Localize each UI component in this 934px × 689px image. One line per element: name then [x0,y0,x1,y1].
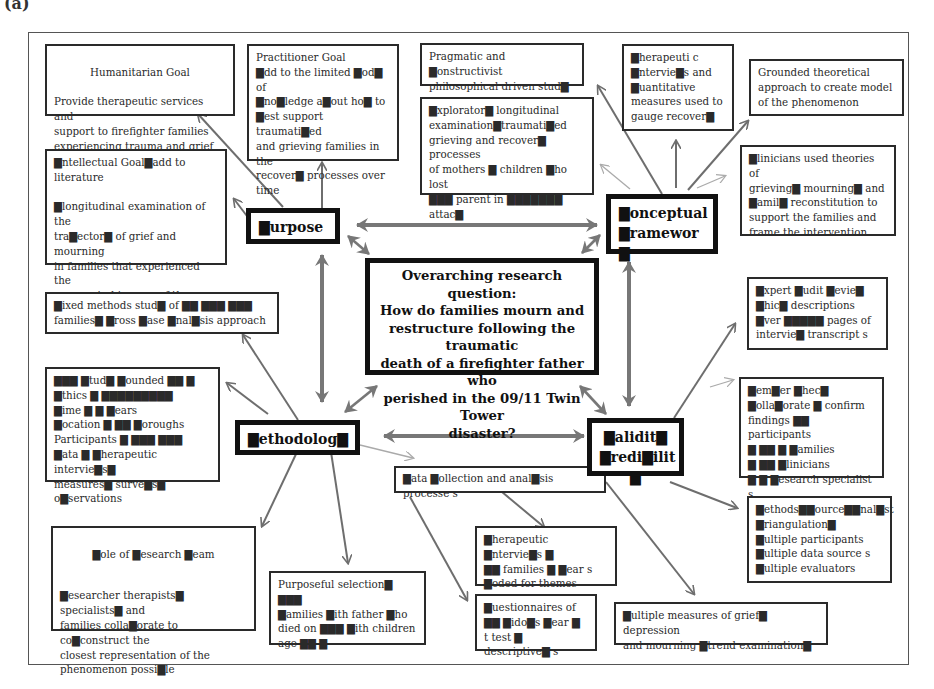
research-team-role-box: ▇ole of ▇esearch ▇eam ▇esearcher therapi… [51,526,256,631]
data-collection-box: ▇ata ▇ollection and anal▇sis processe s [394,466,606,493]
exploratory-box: ▇xplorator▇ longitudinal examination▇tra… [420,97,594,195]
conceptual-framework-hub: ▇onceptual ▇ramewor ▇ [606,194,718,254]
research-team-role-title: ▇ole of ▇esearch ▇eam [60,547,247,562]
humanitarian-goal-box: Humanitarian Goal Provide therapeutic se… [45,44,235,116]
humanitarian-goal-title: Humanitarian Goal [54,65,226,80]
purpose-hub: ▇urpose [246,208,340,244]
research-question-box: Overarching research question: How do fa… [365,258,599,375]
research-team-role-text: ▇esearcher therapists▇ specialists▇ and … [60,588,247,677]
clinicians-box: ▇linicians used theories of grieving▇ mo… [740,145,896,236]
grounded-theory-box: Grounded theoretical approach to create … [749,59,904,116]
questionnaires-box: ▇uestionnaires of ▇▇ ▇ido▇s ▇ear ▇ t tes… [475,594,597,651]
humanitarian-goal-text: Provide therapeutic services and support… [54,94,226,153]
expert-audit-box: ▇xpert ▇udit ▇evie▇ ▇hic▇ descriptions ▇… [747,277,888,350]
therapeutic-measures-box: ▇herapeuti c ▇ntervie▇s and ▇uantitative… [622,44,734,131]
pragmatic-box: Pragmatic and ▇onstructivist philosophic… [420,43,584,86]
study-details-box: ▇▇▇ ▇tud▇ ▇ounded ▇▇ ▇ ▇thics ▇ ▇▇▇▇▇▇▇▇… [45,367,220,482]
member-check-box: ▇em▇er ▇hec▇ ▇olla▇orate ▇ confirm findi… [739,377,884,478]
mixed-methods-box: ▇ixed methods stud▇ of ▇▇ ▇▇▇ ▇▇▇ famili… [45,292,279,334]
methodology-hub: ▇ethodolog▇ [235,420,360,455]
practitioner-goal-box: Practitioner Goal ▇dd to the limited ▇od… [247,44,399,161]
intellectual-goal-box: ▇ntellectual Goal▇add to literature ▇lon… [45,149,227,265]
therapeutic-interviews-box: ▇herapeutic ▇ntervie▇s ▇ ▇▇ families ▇ ▇… [475,526,617,586]
multiple-measures-box: ▇ultiple measures of grief▇ depression a… [614,602,828,645]
triangulation-box: ▇ethods▇▇ource▇▇nal▇st ▇riangulation▇ ▇u… [747,496,892,583]
purposeful-selection-box: Purposeful selection▇ ▇▇▇ ▇amilies ▇ith … [269,571,426,645]
validity-credibility-hub: ▇alidit▇ ▇redi▇ilit ▇ [587,418,684,476]
